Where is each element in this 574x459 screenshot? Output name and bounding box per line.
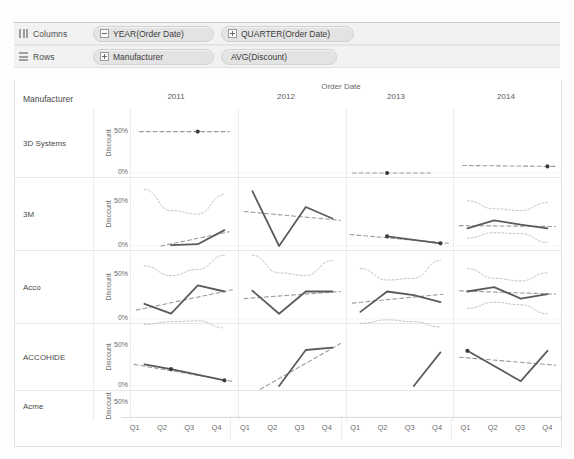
quarter-group-2014: Q1Q2Q3Q4 xyxy=(452,418,561,440)
axis-title: Discount xyxy=(105,200,112,227)
panel-acco-2014[interactable] xyxy=(454,251,561,323)
quarter-tick-2012-Q3[interactable]: Q3 xyxy=(286,418,313,440)
quarter-axis: Q1Q2Q3Q4Q1Q2Q3Q4Q1Q2Q3Q4Q1Q2Q3Q4 xyxy=(121,417,561,440)
quarter-tick-2011-Q2[interactable]: Q2 xyxy=(148,418,175,440)
panel-acco-2013[interactable] xyxy=(347,251,455,323)
quarter-tick-2011-Q3[interactable]: Q3 xyxy=(176,418,203,440)
panel-grid: 3D SystemsDiscount50%0%3MDiscount50%0%Ac… xyxy=(15,109,561,417)
panel-3m-2013[interactable] xyxy=(347,178,455,250)
plus-toggle-icon[interactable] xyxy=(228,29,237,38)
quarter-tick-2012-Q2[interactable]: Q2 xyxy=(259,418,286,440)
panel-3m-2011[interactable] xyxy=(131,178,239,250)
columns-shelf[interactable]: Columns YEAR(Order Date) QUARTER(Order D… xyxy=(14,22,560,45)
panel-accohide-2014[interactable] xyxy=(454,324,561,390)
quarter-tick-2013-Q2[interactable]: Q2 xyxy=(369,418,396,440)
pill-avg-discount[interactable]: AVG(Discount) xyxy=(221,49,337,65)
panel-3d-systems-2011[interactable] xyxy=(131,109,239,177)
panel-accohide-2013[interactable] xyxy=(347,324,455,390)
quarter-tick-2013-Q3[interactable]: Q3 xyxy=(396,418,423,440)
axis-tick-50: 50% xyxy=(114,270,128,277)
axis-tick-50: 50% xyxy=(114,197,128,204)
quarter-group-2011: Q1Q2Q3Q4 xyxy=(121,418,231,440)
pill-avg-discount-label: AVG(Discount) xyxy=(231,52,287,62)
rows-shelf-label: Rows xyxy=(14,52,93,62)
year-header-2011[interactable]: 2011 xyxy=(121,92,231,107)
quarter-group-2013: Q1Q2Q3Q4 xyxy=(342,418,452,440)
column-field-title: Order Date xyxy=(121,82,561,91)
tableau-worksheet: Columns YEAR(Order Date) QUARTER(Order D… xyxy=(0,0,574,459)
discount-axis: Discount50%0% xyxy=(94,251,131,323)
panel-accohide-2012[interactable] xyxy=(239,324,347,390)
minus-toggle-icon[interactable] xyxy=(100,29,109,38)
pill-quarter-order-date[interactable]: QUARTER(Order Date) xyxy=(221,26,354,42)
row-header-label[interactable]: Acme xyxy=(15,391,94,421)
quarter-tick-2011-Q4[interactable]: Q4 xyxy=(203,418,230,440)
panel-row-accohide: ACCOHIDEDiscount50%0% xyxy=(15,324,561,391)
panel-strip xyxy=(131,109,561,177)
panel-row-3d-systems: 3D SystemsDiscount50%0% xyxy=(15,109,561,178)
axis-title: Discount xyxy=(105,392,112,419)
quarter-group-2012: Q1Q2Q3Q4 xyxy=(231,418,341,440)
columns-shelf-label: Columns xyxy=(14,29,93,39)
panel-row-3m: 3MDiscount50%0% xyxy=(15,178,561,251)
axis-tick-50: 50% xyxy=(114,398,128,405)
panel-3d-systems-2012[interactable] xyxy=(239,109,347,177)
discount-axis: Discount50%0% xyxy=(94,109,131,177)
quarter-tick-2012-Q1[interactable]: Q1 xyxy=(231,418,258,440)
year-header-2013[interactable]: 2013 xyxy=(341,92,451,107)
quarter-tick-2011-Q1[interactable]: Q1 xyxy=(121,418,148,440)
year-header-2014[interactable]: 2014 xyxy=(451,92,561,107)
quarter-tick-2013-Q4[interactable]: Q4 xyxy=(423,418,450,440)
panel-strip xyxy=(131,324,561,390)
panel-strip xyxy=(131,178,561,250)
shelf-area: Columns YEAR(Order Date) QUARTER(Order D… xyxy=(14,22,560,68)
rows-shelf[interactable]: Rows Manufacturer AVG(Discount) xyxy=(14,45,560,68)
row-header-title: Manufacturer xyxy=(23,94,73,104)
axis-title: Discount xyxy=(105,273,112,300)
axis-tick-0: 0% xyxy=(118,381,128,388)
panel-acco-2011[interactable] xyxy=(131,251,239,323)
axis-tick-0: 0% xyxy=(118,314,128,321)
panel-3m-2014[interactable] xyxy=(454,178,561,250)
pill-quarter-label: QUARTER(Order Date) xyxy=(241,29,330,39)
row-header-label[interactable]: ACCOHIDE xyxy=(15,324,94,390)
axis-tick-50: 50% xyxy=(114,341,128,348)
axis-tick-0: 0% xyxy=(118,168,128,175)
quarter-tick-2014-Q4[interactable]: Q4 xyxy=(534,418,561,440)
discount-axis: Discount50%0% xyxy=(94,324,131,390)
axis-title: Discount xyxy=(105,343,112,370)
axis-tick-50: 50% xyxy=(114,127,128,134)
panel-strip xyxy=(131,251,561,323)
rows-icon xyxy=(19,52,28,61)
panel-accohide-2011[interactable] xyxy=(131,324,239,390)
panel-3m-2012[interactable] xyxy=(239,178,347,250)
row-header-label[interactable]: 3D Systems xyxy=(15,109,94,177)
quarter-tick-2014-Q2[interactable]: Q2 xyxy=(479,418,506,440)
quarter-tick-2012-Q4[interactable]: Q4 xyxy=(313,418,340,440)
year-header-2012[interactable]: 2012 xyxy=(231,92,341,107)
panel-acco-2012[interactable] xyxy=(239,251,347,323)
pill-year-order-date[interactable]: YEAR(Order Date) xyxy=(93,26,214,42)
axis-title: Discount xyxy=(105,129,112,156)
year-header-band: 2011 2012 2013 2014 xyxy=(121,92,561,107)
plus-toggle-icon[interactable] xyxy=(100,52,109,61)
discount-axis: Discount50%0% xyxy=(94,178,131,250)
row-header-label[interactable]: Acco xyxy=(15,251,94,323)
quarter-tick-2014-Q1[interactable]: Q1 xyxy=(452,418,479,440)
pill-year-label: YEAR(Order Date) xyxy=(113,29,184,39)
panel-3d-systems-2013[interactable] xyxy=(347,109,455,177)
panel-3d-systems-2014[interactable] xyxy=(454,109,561,177)
panel-row-acco: AccoDiscount50%0% xyxy=(15,251,561,324)
pill-manufacturer-label: Manufacturer xyxy=(113,52,163,62)
viz-canvas: Order Date Manufacturer 2011 2012 2013 2… xyxy=(14,80,562,447)
axis-tick-0: 0% xyxy=(118,241,128,248)
pill-manufacturer[interactable]: Manufacturer xyxy=(93,49,214,65)
quarter-tick-2014-Q3[interactable]: Q3 xyxy=(506,418,533,440)
rows-shelf-text: Rows xyxy=(33,52,55,62)
quarter-tick-2013-Q1[interactable]: Q1 xyxy=(342,418,369,440)
row-header-label[interactable]: 3M xyxy=(15,178,94,250)
columns-icon xyxy=(19,29,28,38)
columns-shelf-text: Columns xyxy=(33,29,67,39)
